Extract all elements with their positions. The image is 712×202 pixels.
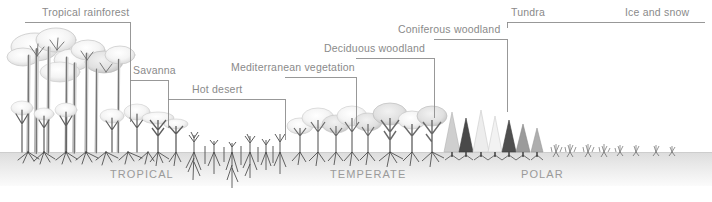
bracket-label-coniferous-woodland: Coniferous woodland <box>398 24 500 35</box>
bracket-label-deciduous-woodland: Deciduous woodland <box>324 43 425 54</box>
zone-label-tropical: TROPICAL <box>110 169 174 180</box>
zone-label-temperate: TEMPERATE <box>330 169 406 180</box>
bracket-coniferous-woodland <box>434 39 507 112</box>
biome-profile-diagram: Tropical rainforest Savanna Hot desert M… <box>0 0 712 202</box>
bracket-tundra <box>507 22 705 28</box>
bracket-label-mediterranean-vegetation: Mediterranean vegetation <box>231 62 355 73</box>
bracket-label-tundra: Tundra <box>511 7 545 18</box>
bracket-label-hot-desert: Hot desert <box>192 84 242 95</box>
rainforest-vegetation <box>7 28 154 165</box>
bracket-label-tropical-rainforest: Tropical rainforest <box>42 7 129 18</box>
bracket-label-ice-and-snow: Ice and snow <box>625 7 689 18</box>
bracket-label-savanna: Savanna <box>133 65 176 76</box>
bracket-hot-desert <box>168 99 285 140</box>
zone-label-polar: POLAR <box>521 169 564 180</box>
